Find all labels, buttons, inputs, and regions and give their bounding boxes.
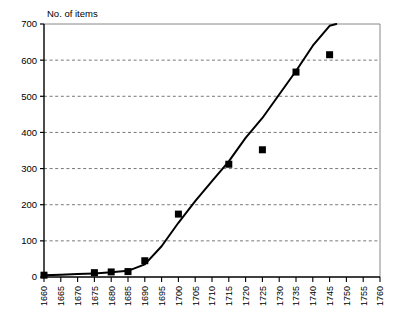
x-tick-label: 1715 bbox=[224, 286, 234, 306]
y-tick-label: 200 bbox=[21, 199, 37, 210]
y-tick-label: 300 bbox=[21, 163, 37, 174]
x-tick-label: 1685 bbox=[123, 286, 133, 306]
x-tick-label: 1735 bbox=[291, 286, 301, 306]
x-tick-label: 1745 bbox=[325, 286, 335, 306]
data-point-marker bbox=[108, 268, 115, 275]
x-tick-label: 1665 bbox=[56, 286, 66, 306]
x-tick-label: 1700 bbox=[174, 286, 184, 306]
x-tick-label: 1730 bbox=[275, 286, 285, 306]
data-point-marker bbox=[41, 272, 48, 279]
x-tick-label: 1750 bbox=[342, 286, 352, 306]
data-point-marker bbox=[125, 268, 132, 275]
data-point-marker bbox=[91, 269, 98, 276]
y-tick-label: 700 bbox=[21, 18, 37, 29]
x-tick-label: 1725 bbox=[258, 286, 268, 306]
x-tick-label: 1680 bbox=[107, 286, 117, 306]
x-tick-label: 1720 bbox=[241, 286, 251, 306]
line-scatter-chart: 0100200300400500600700166016651670167516… bbox=[0, 0, 409, 326]
x-tick-label: 1740 bbox=[308, 286, 318, 306]
y-tick-label: 500 bbox=[21, 91, 37, 102]
data-point-marker bbox=[259, 146, 266, 153]
x-tick-label: 1670 bbox=[73, 286, 83, 306]
x-tick-label: 1705 bbox=[191, 286, 201, 306]
y-tick-label: 0 bbox=[32, 271, 37, 282]
data-point-marker bbox=[326, 51, 333, 58]
x-tick-label: 1755 bbox=[359, 286, 369, 306]
y-tick-label: 600 bbox=[21, 55, 37, 66]
y-tick-label: 400 bbox=[21, 127, 37, 138]
x-tick-label: 1695 bbox=[157, 286, 167, 306]
x-tick-label: 1760 bbox=[375, 286, 385, 306]
x-tick-label: 1690 bbox=[140, 286, 150, 306]
x-tick-label: 1710 bbox=[207, 286, 217, 306]
fitted-curve bbox=[44, 24, 336, 275]
y-axis-title: No. of items bbox=[47, 8, 98, 19]
data-point-marker bbox=[293, 69, 300, 76]
data-point-marker bbox=[175, 211, 182, 218]
x-tick-label: 1660 bbox=[39, 286, 49, 306]
y-tick-label: 100 bbox=[21, 235, 37, 246]
x-tick-label: 1675 bbox=[90, 286, 100, 306]
chart-container: 0100200300400500600700166016651670167516… bbox=[0, 0, 409, 326]
data-point-marker bbox=[225, 161, 232, 168]
data-point-marker bbox=[141, 257, 148, 264]
